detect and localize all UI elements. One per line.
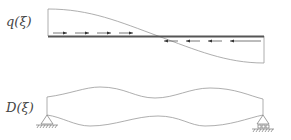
load-function-label: q(ξ) bbox=[6, 14, 32, 29]
beam-diagram bbox=[0, 0, 291, 140]
load-distribution-panel bbox=[48, 9, 264, 63]
profile-bottom-curve bbox=[47, 115, 263, 126]
stiffness-function-label: D(ξ) bbox=[6, 100, 34, 115]
profile-top-curve bbox=[47, 87, 263, 99]
beam-profile-panel bbox=[36, 87, 274, 132]
roller-support-icon bbox=[252, 115, 274, 132]
